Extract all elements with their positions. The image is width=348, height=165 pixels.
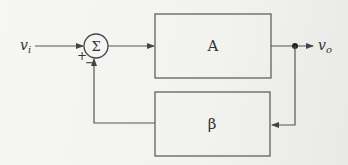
block-beta-label: β — [208, 115, 217, 133]
block-beta: β — [155, 92, 270, 156]
output-label: vo — [318, 37, 332, 55]
feedback-path-out — [94, 59, 155, 123]
block-a-label: A — [207, 37, 219, 55]
feedback-diagram: vi Σ + − A vo β — [0, 0, 348, 165]
sigma-symbol: Σ — [91, 39, 100, 54]
block-a: A — [155, 14, 271, 78]
feedback-path-in — [272, 46, 295, 125]
diagram-svg: vi Σ + − A vo β — [0, 0, 348, 165]
input-label: vi — [20, 37, 31, 55]
